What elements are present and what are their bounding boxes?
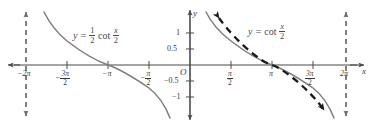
y-tick-label-1: 1 bbox=[176, 29, 180, 37]
arg-denominator: 2 bbox=[113, 36, 119, 45]
denominator: 2 bbox=[145, 79, 151, 87]
x-tick-label-minus-2pi: −2π bbox=[17, 70, 30, 78]
y-axis-name: y bbox=[193, 9, 197, 18]
denominator: 2 bbox=[227, 79, 233, 87]
graph-canvas bbox=[0, 0, 374, 125]
equation-half-cot: y = 1 2 cot x 2 bbox=[73, 26, 119, 44]
y-tick-label-minus-0.5: −0.5 bbox=[164, 77, 179, 85]
x-tick-label-pi-over-2: π 2 bbox=[227, 70, 233, 86]
y-tick-label-minus-1: −1 bbox=[172, 93, 181, 101]
fraction: 3π 2 bbox=[305, 70, 315, 86]
equation-cot: y = cot x 2 bbox=[248, 22, 285, 40]
x-tick-label-minus-pi-over-2: − π 2 bbox=[140, 70, 151, 86]
equation-half-cot-argument: x 2 bbox=[113, 26, 119, 44]
x-tick-label-minus-pi: −π bbox=[102, 70, 111, 78]
denominator: 2 bbox=[60, 79, 70, 87]
x-tick-label-3pi-over-2: 3π 2 bbox=[305, 70, 315, 86]
equation-cot-func: cot bbox=[264, 26, 276, 37]
y-tick-label-0.5: 0.5 bbox=[167, 45, 177, 53]
equation-half-cot-func: cot bbox=[98, 30, 110, 41]
x-axis-name: x bbox=[362, 67, 366, 76]
fraction: 3π 2 bbox=[60, 70, 70, 86]
fraction: π 2 bbox=[227, 70, 233, 86]
cotangent-graph-figure: y = 1 2 cot x 2 y = cot x 2 y x O 1 0.5 … bbox=[0, 0, 374, 125]
origin-label: O bbox=[180, 68, 187, 77]
x-tick-label-minus-3pi-over-2: − 3π 2 bbox=[55, 70, 70, 86]
equation-cot-lhs: y = bbox=[248, 26, 262, 37]
fraction: π 2 bbox=[145, 70, 151, 86]
x-tick-label-pi: π bbox=[269, 70, 273, 78]
equation-half-cot-lhs: y = bbox=[73, 30, 87, 41]
x-tick-label-2pi: 2π bbox=[340, 70, 348, 78]
arg-denominator: 2 bbox=[279, 32, 285, 41]
equation-cot-argument: x 2 bbox=[279, 22, 285, 40]
coef-denominator: 2 bbox=[89, 36, 95, 45]
denominator: 2 bbox=[305, 79, 315, 87]
equation-half-cot-coefficient: 1 2 bbox=[89, 26, 95, 44]
